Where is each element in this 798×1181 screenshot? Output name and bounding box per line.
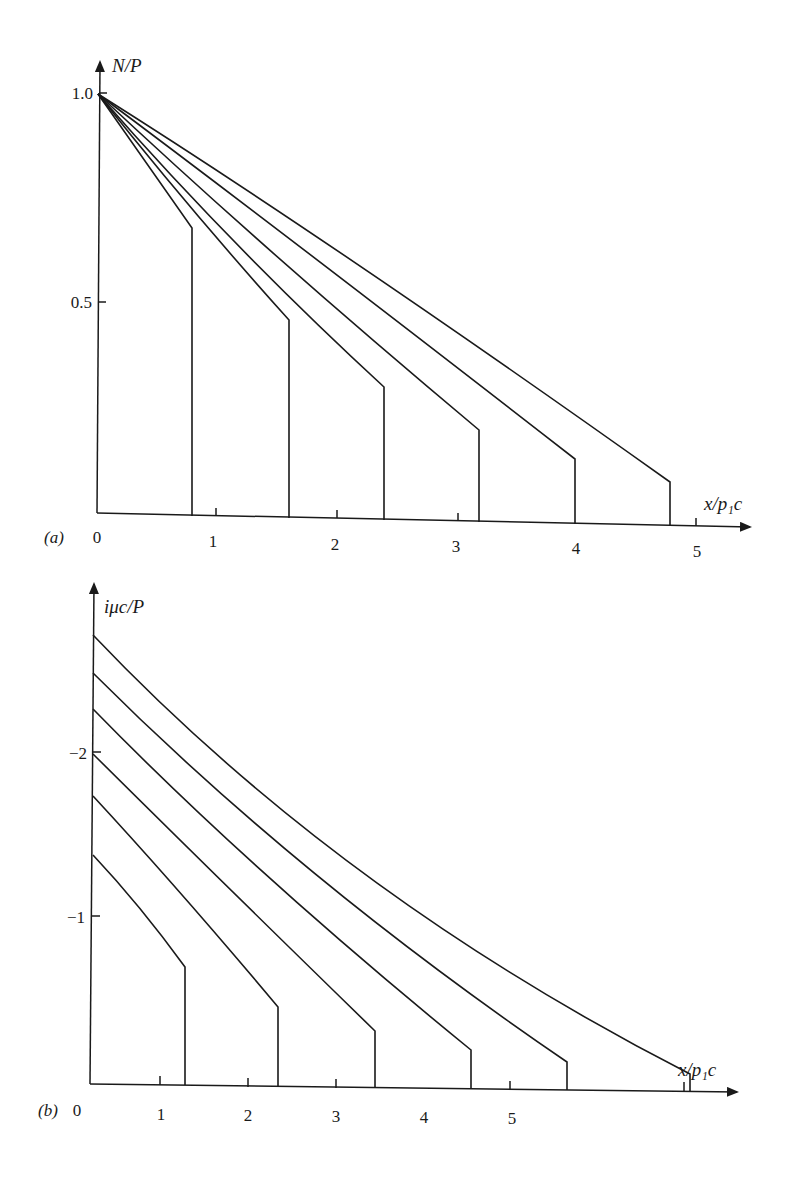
curve-b-6	[93, 635, 690, 1091]
curve-b-5	[93, 673, 567, 1090]
curve-b-4	[93, 709, 471, 1089]
figure-curves-b	[0, 0, 798, 1181]
curve-b-1	[93, 855, 185, 1085]
